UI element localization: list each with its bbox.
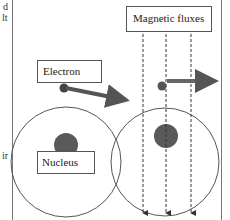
margin-text-fragment: lt xyxy=(2,12,8,23)
right-electron-icon xyxy=(158,82,167,91)
electron-label-box: Electron xyxy=(38,61,102,83)
electron-motion-arrow xyxy=(66,88,126,100)
nucleus-label: Nucleus xyxy=(42,156,78,168)
magnetic-fluxes-label: Magnetic fluxes xyxy=(133,12,204,24)
nucleus-label-box: Nucleus xyxy=(38,152,95,174)
margin-text-fragment: d xyxy=(3,1,8,12)
electron-label: Electron xyxy=(43,65,81,77)
margin-text-fragment: ir xyxy=(2,150,9,161)
diagram-canvas: d lt ir Electron Nucleus Magnetic fluxes xyxy=(0,0,230,220)
magnetic-fluxes-label-box: Magnetic fluxes xyxy=(127,7,212,32)
